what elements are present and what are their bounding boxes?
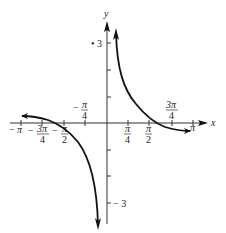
tick-label-pi: π [190, 122, 196, 133]
curve-right-branch [113, 28, 190, 131]
tick-label-3pi4-num: 3π [165, 99, 177, 110]
stray-mark: • [91, 38, 95, 49]
tick-label-pi2-num: π [146, 123, 152, 134]
function-graph: x − π − 3π 4 − π 2 − π 4 π [0, 0, 226, 233]
tick-label-pi4-den: 4 [125, 134, 130, 145]
tick-label-neg-3pi4-num: 3π [36, 123, 48, 134]
tick-label-neg-pi: π [17, 124, 23, 135]
x-tick-labels: − π − 3π 4 − π 2 − π 4 π 4 π 2 3π 4 π [9, 99, 196, 145]
tick-label-pi2-den: 2 [146, 134, 151, 145]
tick-label-pi4-num: π [125, 123, 131, 134]
tick-label-neg-pi4-den: 4 [82, 110, 87, 121]
tick-label-neg-3pi4-den: 4 [40, 134, 45, 145]
tick-label-neg-pi4-num: π [82, 99, 88, 110]
tick-label-neg-pi2-den: 2 [62, 134, 67, 145]
tick-label-neg-3pi4-sign: − [28, 125, 34, 136]
tick-label-neg-pi-sign: − [9, 124, 15, 135]
y-tick-label-neg-3: − 3 [113, 198, 126, 209]
x-axis-label: x [210, 117, 216, 128]
tick-label-3pi4-den: 4 [169, 110, 174, 121]
tick-label-neg-pi4-sign: − [73, 102, 79, 113]
y-axis-label: y [103, 8, 109, 19]
tick-label-neg-pi2-sign: − [52, 125, 58, 136]
y-tick-label-3: 3 [97, 38, 102, 49]
